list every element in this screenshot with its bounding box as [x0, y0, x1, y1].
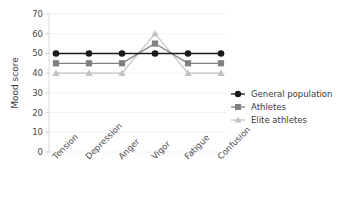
data-point-depression: [86, 60, 92, 66]
legend-square-icon: [235, 104, 241, 110]
series-layer: [52, 30, 224, 76]
data-point-depression: [86, 50, 93, 57]
x-tick-label-fatigue: Fatigue: [182, 132, 211, 161]
x-tick-label-tension: Tension: [50, 132, 80, 162]
series-general-population: [53, 50, 225, 57]
y-axis-title: Mood score: [10, 57, 20, 109]
data-point-confusion: [218, 60, 224, 66]
y-tick-label-0: 0: [38, 147, 43, 157]
gridlines: [49, 14, 227, 152]
data-point-anger: [119, 60, 125, 66]
y-tick-label-20: 20: [32, 108, 43, 118]
legend-label-elite-athletes: Elite athletes: [251, 115, 307, 125]
y-tick-label-70: 70: [32, 9, 43, 19]
legend-circle-icon: [235, 91, 241, 97]
data-point-confusion: [218, 50, 225, 57]
legend-item-general-population[interactable]: General population: [231, 89, 332, 99]
data-point-fatigue: [185, 50, 192, 57]
y-tick-label-50: 50: [32, 48, 43, 58]
y-tick-label-30: 30: [32, 88, 43, 98]
chart-legend: General population Athletes Elite athlet…: [231, 89, 332, 125]
legend-item-elite-athletes[interactable]: Elite athletes: [231, 115, 307, 125]
y-tick-label-40: 40: [32, 68, 43, 78]
legend-item-athletes[interactable]: Athletes: [231, 102, 287, 112]
mood-profile-line-chart: 70 60 50 40 30 20 10 0 Mood score Tensio…: [0, 0, 349, 214]
y-tick-labels: 70 60 50 40 30 20 10 0: [32, 9, 43, 157]
data-point-vigor: [152, 40, 158, 46]
data-point-fatigue: [185, 60, 191, 66]
x-tick-label-confusion: Confusion: [215, 124, 252, 161]
legend-label-athletes: Athletes: [251, 102, 287, 112]
x-tick-labels: Tension Depression Anger Vigor Fatigue C…: [50, 121, 253, 162]
x-tick-label-vigor: Vigor: [149, 138, 172, 161]
y-tick-label-10: 10: [32, 127, 43, 137]
data-point-tension: [53, 50, 60, 57]
y-tick-label-60: 60: [32, 29, 43, 39]
x-tick-label-anger: Anger: [116, 136, 141, 161]
data-point-vigor: [151, 30, 158, 36]
y-axis: [46, 13, 50, 153]
chart-figure: 70 60 50 40 30 20 10 0 Mood score Tensio…: [0, 0, 349, 214]
data-point-vigor: [152, 50, 159, 57]
data-point-anger: [119, 50, 126, 57]
data-point-tension: [53, 60, 59, 66]
legend-label-general-population: General population: [251, 89, 332, 99]
